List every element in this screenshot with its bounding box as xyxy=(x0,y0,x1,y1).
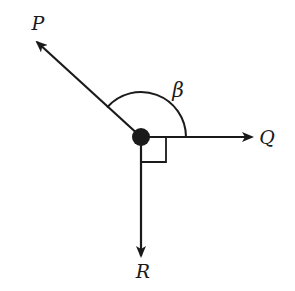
origin-point xyxy=(132,128,150,146)
label-p: P xyxy=(31,12,46,34)
label-beta: β xyxy=(171,78,184,102)
force-vector-diagram: P Q R β xyxy=(0,0,295,291)
label-r: R xyxy=(135,260,150,282)
vector-p-arrow xyxy=(37,42,141,137)
label-q: Q xyxy=(259,126,275,148)
